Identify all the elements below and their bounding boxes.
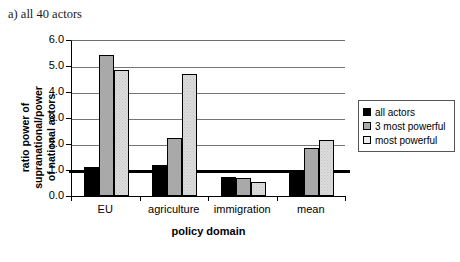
y-axis-tick-label: 4.0	[4, 86, 64, 97]
y-axis-tick	[66, 118, 71, 119]
y-axis-tick-label: 3.0	[4, 112, 64, 123]
x-axis-label-mean: mean	[266, 203, 356, 215]
legend-label-3-most-powerful: 3 most powerful	[375, 121, 446, 132]
legend-swatch-icon-most-powerful	[363, 136, 371, 144]
bar-mean-3-most-powerful	[304, 148, 319, 196]
bar-mean-all-actors	[289, 170, 304, 196]
y-axis-tick-label: 5.0	[4, 60, 64, 71]
legend-item-3-most-powerful: 3 most powerful	[363, 119, 451, 133]
bar-EU-3-most-powerful	[99, 55, 114, 196]
bar-agriculture-most-powerful	[182, 74, 197, 196]
legend-label-most-powerful: most powerful	[375, 135, 437, 146]
bar-EU-most-powerful	[114, 70, 129, 196]
x-axis-tick	[277, 196, 278, 201]
y-axis-tick	[66, 40, 71, 41]
x-axis-tick	[345, 196, 346, 201]
y-axis-tick	[66, 170, 71, 171]
bar-agriculture-3-most-powerful	[167, 138, 182, 197]
y-axis-tick-label: 1.0	[4, 164, 64, 175]
x-axis-title: policy domain	[71, 225, 346, 237]
bar-EU-all-actors	[84, 167, 99, 196]
chart-legend: all actors 3 most powerful most powerful	[358, 100, 455, 152]
y-axis-tick-label: 0.0	[4, 190, 64, 201]
legend-swatch-icon-3-most-powerful	[363, 122, 371, 130]
legend-swatch-icon-all-actors	[363, 108, 371, 116]
figure-caption: a) all 40 actors	[8, 7, 82, 22]
bar-immigration-all-actors	[221, 177, 236, 196]
legend-item-most-powerful: most powerful	[363, 133, 451, 147]
bar-immigration-most-powerful	[251, 182, 266, 196]
x-axis-tick	[71, 196, 72, 201]
y-axis-tick-label: 2.0	[4, 138, 64, 149]
legend-item-all-actors: all actors	[363, 105, 451, 119]
y-axis-tick	[66, 92, 71, 93]
x-axis-tick	[140, 196, 141, 201]
y-axis-tick-label: 6.0	[4, 34, 64, 45]
legend-label-all-actors: all actors	[375, 107, 415, 118]
bar-agriculture-all-actors	[152, 165, 167, 196]
bar-mean-most-powerful	[319, 140, 334, 196]
bar-immigration-3-most-powerful	[236, 178, 251, 196]
y-axis-tick	[66, 144, 71, 145]
y-axis-tick	[66, 66, 71, 67]
x-axis-tick	[208, 196, 209, 201]
chart-plot-area	[71, 40, 345, 196]
